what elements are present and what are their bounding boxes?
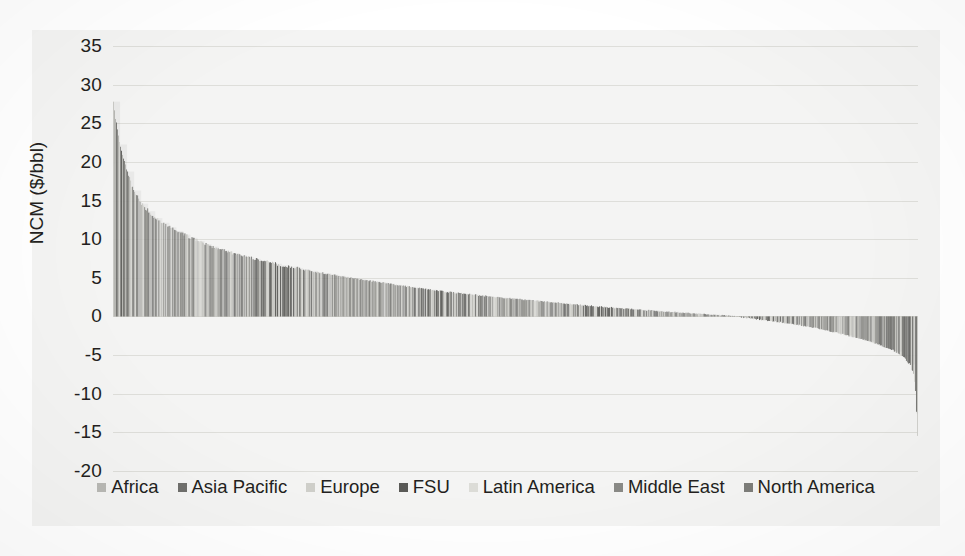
legend-item-latin-america[interactable]: Latin America: [469, 478, 595, 497]
legend-item-fsu[interactable]: FSU: [399, 478, 450, 497]
legend-item-europe[interactable]: Europe: [306, 478, 380, 497]
y-axis-tick-label: 30: [56, 75, 102, 94]
legend-item-label: Europe: [320, 478, 380, 497]
legend-swatch-icon: [399, 483, 408, 492]
y-axis-tick-label: -15: [56, 422, 102, 441]
legend-item-north-america[interactable]: North America: [744, 478, 875, 497]
plot-area: [113, 46, 918, 471]
legend-swatch-icon: [744, 483, 753, 492]
y-axis-tick-label: 25: [56, 113, 102, 132]
bar-series-canvas: [113, 46, 918, 471]
legend-swatch-icon: [97, 483, 106, 492]
chart-legend: AfricaAsia PacificEuropeFSULatin America…: [32, 478, 940, 497]
legend-item-label: Asia Pacific: [192, 478, 288, 497]
legend-item-label: FSU: [413, 478, 450, 497]
legend-swatch-icon: [178, 483, 187, 492]
legend-swatch-icon: [306, 483, 315, 492]
y-axis-tick-label: -10: [56, 384, 102, 403]
legend-item-asia-pacific[interactable]: Asia Pacific: [178, 478, 288, 497]
chart-figure: 35302520151050-5-10-15-20 NCM ($/bbl) Af…: [0, 0, 965, 556]
y-axis-tick-label: -5: [56, 345, 102, 364]
legend-item-label: Middle East: [628, 478, 725, 497]
y-axis-tick-label: 15: [56, 191, 102, 210]
legend-item-label: North America: [758, 478, 875, 497]
y-axis-tick-label: 35: [56, 36, 102, 55]
y-axis-tick-label: 10: [56, 229, 102, 248]
y-axis-tick-layer: 35302520151050-5-10-15-20: [46, 46, 102, 471]
legend-item-label: Latin America: [483, 478, 595, 497]
gridline--20: [113, 471, 918, 472]
y-axis-title: NCM ($/bbl): [26, 78, 48, 308]
y-axis-tick-label: 20: [56, 152, 102, 171]
y-axis-tick-label: 0: [56, 306, 102, 325]
y-axis-tick-label: 5: [56, 268, 102, 287]
legend-item-africa[interactable]: Africa: [97, 478, 158, 497]
legend-swatch-icon: [614, 483, 623, 492]
legend-item-middle-east[interactable]: Middle East: [614, 478, 725, 497]
legend-swatch-icon: [469, 483, 478, 492]
legend-item-label: Africa: [111, 478, 158, 497]
